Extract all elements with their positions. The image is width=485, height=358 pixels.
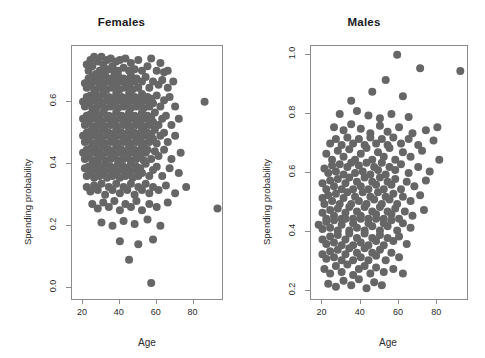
data-point bbox=[132, 197, 140, 205]
data-point bbox=[109, 222, 117, 230]
data-point bbox=[334, 204, 342, 212]
data-point bbox=[330, 216, 338, 224]
data-point bbox=[405, 169, 413, 177]
data-point bbox=[330, 238, 338, 246]
data-point bbox=[326, 224, 334, 232]
data-point bbox=[456, 67, 464, 75]
data-point bbox=[151, 126, 159, 134]
data-point bbox=[334, 231, 342, 239]
data-point bbox=[138, 169, 146, 177]
data-point bbox=[353, 107, 361, 115]
data-point bbox=[164, 67, 172, 75]
data-point bbox=[382, 76, 390, 84]
data-point bbox=[387, 216, 395, 224]
y-tick-mark bbox=[66, 101, 71, 102]
y-tick-label: 0.6 bbox=[48, 87, 58, 113]
data-point bbox=[330, 123, 338, 131]
panel-title-males: Males bbox=[243, 16, 485, 28]
data-point bbox=[376, 231, 384, 239]
data-point bbox=[399, 148, 407, 156]
data-point bbox=[433, 123, 441, 131]
data-point bbox=[332, 168, 340, 176]
x-tick-label: 40 bbox=[345, 307, 375, 317]
data-point bbox=[322, 240, 330, 248]
x-tick-label: 60 bbox=[141, 307, 171, 317]
y-tick-mark bbox=[305, 54, 310, 55]
y-tick-label: 1.0 bbox=[287, 40, 297, 66]
y-tick-mark bbox=[305, 231, 310, 232]
data-point bbox=[347, 97, 355, 105]
data-point bbox=[318, 225, 326, 233]
x-tick-mark bbox=[321, 299, 322, 304]
data-point bbox=[376, 173, 384, 181]
data-point bbox=[397, 160, 405, 168]
data-point bbox=[364, 111, 372, 119]
data-point bbox=[153, 92, 161, 100]
y-tick-label: 0.8 bbox=[287, 99, 297, 125]
data-point bbox=[336, 160, 344, 168]
x-tick-mark bbox=[119, 299, 120, 304]
data-point bbox=[395, 233, 403, 241]
data-point bbox=[158, 172, 166, 180]
data-point bbox=[374, 188, 382, 196]
data-point bbox=[405, 113, 413, 121]
data-point bbox=[345, 230, 353, 238]
data-point bbox=[347, 281, 355, 289]
x-tick-label: 80 bbox=[421, 307, 451, 317]
data-point bbox=[363, 159, 371, 167]
data-point bbox=[166, 93, 174, 101]
panel-females: Females 0.00.20.40.620406080 Age Spendin… bbox=[0, 0, 243, 358]
panel-males: Males 0.20.40.60.81.020406080 Age Spendi… bbox=[243, 0, 485, 358]
scatter-points-males bbox=[311, 46, 467, 299]
data-point bbox=[328, 197, 336, 205]
data-point bbox=[355, 197, 363, 205]
x-tick-label: 40 bbox=[104, 307, 134, 317]
x-tick-mark bbox=[193, 299, 194, 304]
data-point bbox=[378, 159, 386, 167]
data-point bbox=[213, 205, 221, 213]
data-point bbox=[372, 215, 380, 223]
data-point bbox=[407, 224, 415, 232]
data-point bbox=[355, 275, 363, 283]
data-point bbox=[403, 178, 411, 186]
data-point bbox=[334, 175, 342, 183]
data-point bbox=[164, 84, 172, 92]
data-point bbox=[368, 88, 376, 96]
data-point bbox=[343, 261, 351, 269]
data-point bbox=[147, 279, 155, 287]
data-point bbox=[153, 140, 161, 148]
data-point bbox=[340, 277, 348, 285]
data-point bbox=[389, 265, 397, 273]
data-point bbox=[166, 164, 174, 172]
data-point bbox=[361, 230, 369, 238]
data-point bbox=[134, 240, 142, 248]
data-point bbox=[407, 197, 415, 205]
data-point bbox=[382, 256, 390, 264]
data-point bbox=[361, 244, 369, 252]
data-point bbox=[120, 217, 128, 225]
data-point bbox=[345, 173, 353, 181]
data-point bbox=[155, 152, 163, 160]
data-point bbox=[125, 256, 133, 264]
data-point bbox=[370, 196, 378, 204]
data-point bbox=[145, 200, 153, 208]
y-tick-label: 0.2 bbox=[287, 276, 297, 302]
y-tick-mark bbox=[66, 163, 71, 164]
data-point bbox=[127, 203, 135, 211]
x-tick-mark bbox=[398, 299, 399, 304]
data-point bbox=[201, 98, 209, 106]
data-point bbox=[134, 56, 142, 64]
data-point bbox=[361, 173, 369, 181]
data-point bbox=[416, 191, 424, 199]
data-point bbox=[407, 153, 415, 161]
data-point bbox=[410, 182, 418, 190]
y-tick-mark bbox=[305, 172, 310, 173]
data-point bbox=[361, 262, 369, 270]
data-point bbox=[357, 253, 365, 261]
x-tick-mark bbox=[436, 299, 437, 304]
data-point bbox=[357, 215, 365, 223]
data-point bbox=[399, 219, 407, 227]
data-point bbox=[374, 166, 382, 174]
data-point bbox=[414, 163, 422, 171]
data-point bbox=[153, 203, 161, 211]
